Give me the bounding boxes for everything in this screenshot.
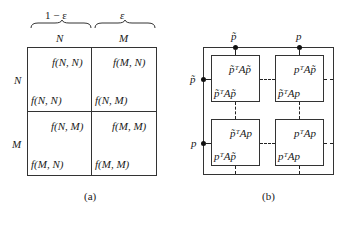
cell-nm-top: f(M, N) — [113, 56, 145, 68]
caption-b: (b) — [262, 190, 275, 202]
left-node-label-ptilde: p̃ — [190, 73, 196, 85]
box-12-top: pᵀAp̃ — [294, 63, 316, 75]
box-22-bottom: pᵀAp — [278, 150, 300, 162]
connector-v — [299, 102, 300, 119]
top-node-label-p: p — [296, 30, 302, 42]
connector-v — [235, 166, 236, 174]
connector-h — [205, 79, 211, 80]
cell-mm-bottom: f(M, M) — [95, 158, 129, 170]
cell-mm-top: f(M, M) — [112, 120, 146, 132]
box-11-top: p̃ᵀAp̃ — [229, 63, 251, 75]
box-21-bottom: pᵀAp̃ — [214, 150, 236, 162]
cell-nm-bottom: f(N, M) — [95, 94, 127, 106]
cell-nn-bottom: f(N, N) — [31, 94, 62, 106]
connector-h — [205, 143, 211, 144]
cell-mn-top: f(N, M) — [51, 120, 83, 132]
connector-h — [260, 79, 275, 80]
connector-v — [299, 49, 300, 55]
row-header-m: M — [12, 138, 21, 150]
top-node-label-ptilde: p̃ — [231, 30, 237, 42]
connector-h — [324, 79, 333, 80]
cell-nn-top: f(N, N) — [52, 56, 83, 68]
grid-divider-horizontal — [27, 111, 157, 112]
col-header-m: M — [119, 32, 128, 44]
col-header-n: N — [56, 32, 63, 44]
connector-v — [299, 166, 300, 174]
connector-h — [260, 143, 275, 144]
box-21-top: p̃ᵀAp — [230, 127, 252, 139]
brace-icons — [28, 20, 158, 30]
row-header-n: N — [14, 74, 21, 86]
box-11-bottom: p̃ᵀAp̃ — [214, 87, 236, 99]
left-node-label-p: p — [191, 137, 197, 149]
connector-v — [235, 102, 236, 119]
cell-mn-bottom: f(M, N) — [31, 158, 63, 170]
connector-v — [235, 49, 236, 55]
caption-a: (a) — [84, 190, 96, 202]
box-22-top: pᵀAp — [294, 127, 316, 139]
box-12-bottom: p̃ᵀAp — [278, 87, 300, 99]
connector-h — [324, 143, 333, 144]
